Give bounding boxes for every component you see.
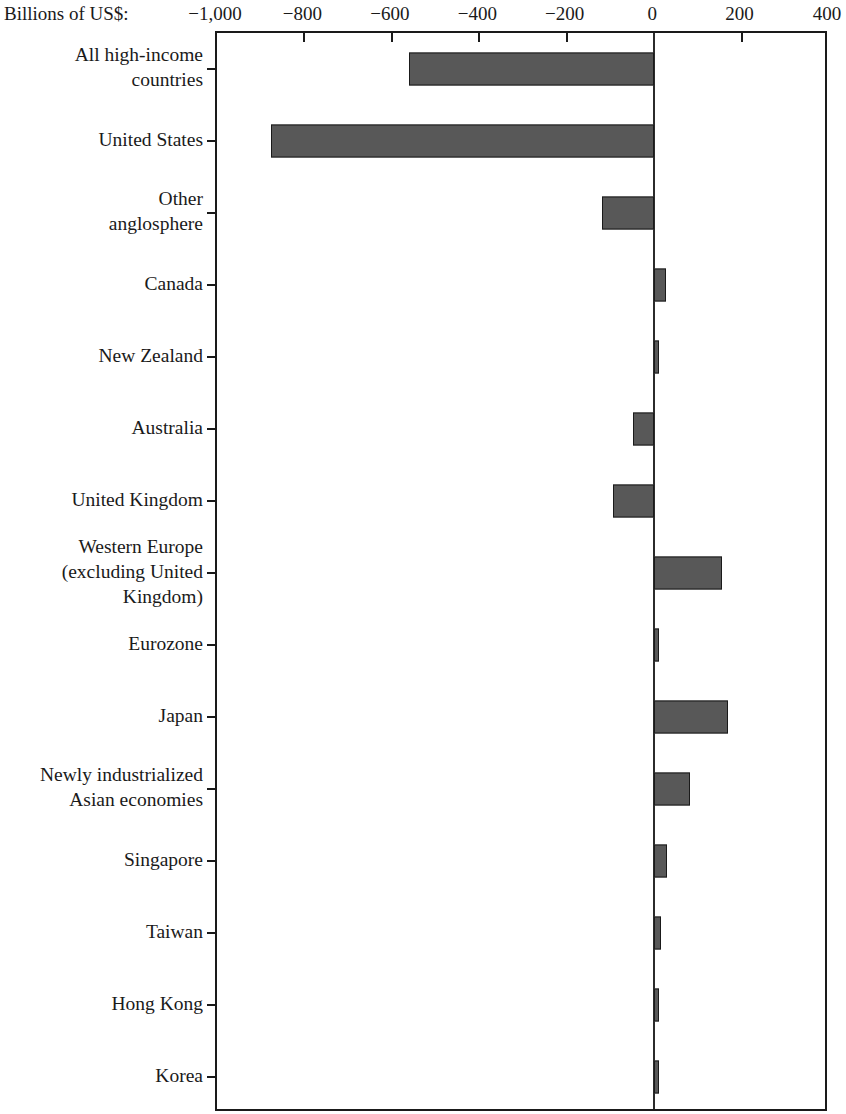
category-label: United States xyxy=(3,127,203,152)
category-label: Hong Kong xyxy=(3,991,203,1016)
category-label: Eurozone xyxy=(3,631,203,656)
category-axis-tick xyxy=(207,356,216,358)
chart-row xyxy=(217,969,825,1041)
axis-unit-label: Billions of US$: xyxy=(4,2,129,26)
x-axis-tick-label: 200 xyxy=(725,2,754,26)
category-label: Korea xyxy=(3,1063,203,1088)
chart-row xyxy=(217,825,825,897)
category-label: Other anglosphere xyxy=(3,186,203,236)
category-axis-tick xyxy=(207,716,216,718)
category-axis-tick xyxy=(207,500,216,502)
category-axis-tick xyxy=(207,932,216,934)
bar[interactable] xyxy=(654,1061,659,1094)
category-axis-tick xyxy=(207,428,216,430)
x-axis-tick-label: 0 xyxy=(647,2,657,26)
category-axis-tick xyxy=(207,860,216,862)
chart-root: Billions of US$: −1,000−800−600−400−2000… xyxy=(0,0,846,1114)
chart-row xyxy=(217,33,825,105)
chart-row xyxy=(217,105,825,177)
category-axis-tick xyxy=(207,644,216,646)
category-label: Singapore xyxy=(3,847,203,872)
category-axis-tick xyxy=(207,140,216,142)
category-axis-tick xyxy=(207,1004,216,1006)
bar[interactable] xyxy=(633,413,654,446)
plot-frame xyxy=(215,31,827,1111)
category-label: New Zealand xyxy=(3,343,203,368)
category-label: All high-income countries xyxy=(3,42,203,92)
category-label: Newly industrialized Asian economies xyxy=(3,762,203,812)
chart-row xyxy=(217,177,825,249)
category-label: Canada xyxy=(3,271,203,296)
x-axis-tick-label: −800 xyxy=(283,2,322,26)
bar[interactable] xyxy=(654,629,659,662)
bar[interactable] xyxy=(654,917,661,950)
category-label: Western Europe (excluding United Kingdom… xyxy=(3,534,203,609)
category-label: Australia xyxy=(3,415,203,440)
category-label: Taiwan xyxy=(3,919,203,944)
bar[interactable] xyxy=(654,845,667,878)
category-axis-tick xyxy=(207,68,216,70)
category-axis-tick xyxy=(207,572,216,574)
chart-row xyxy=(217,1041,825,1113)
bar[interactable] xyxy=(271,125,654,158)
bar[interactable] xyxy=(654,269,666,302)
x-axis-tick-label: −200 xyxy=(545,2,584,26)
chart-row xyxy=(217,609,825,681)
x-axis-tick-label: 400 xyxy=(813,2,842,26)
chart-row xyxy=(217,537,825,609)
category-label: United Kingdom xyxy=(3,487,203,512)
category-axis-tick xyxy=(207,284,216,286)
bar[interactable] xyxy=(602,197,654,230)
bar[interactable] xyxy=(654,701,727,734)
bar[interactable] xyxy=(654,557,722,590)
category-axis-tick xyxy=(207,788,216,790)
category-axis-tick xyxy=(207,1076,216,1078)
category-axis-tick xyxy=(207,212,216,214)
chart-row xyxy=(217,393,825,465)
plot-area xyxy=(217,33,825,1109)
bar[interactable] xyxy=(613,485,654,518)
chart-row xyxy=(217,753,825,825)
x-axis-tick-label: −1,000 xyxy=(188,2,241,26)
chart-row xyxy=(217,321,825,393)
bar[interactable] xyxy=(409,53,654,86)
bar[interactable] xyxy=(654,989,659,1022)
chart-row xyxy=(217,465,825,537)
chart-row xyxy=(217,681,825,753)
x-axis-tick-label: −600 xyxy=(370,2,409,26)
chart-row xyxy=(217,897,825,969)
bar[interactable] xyxy=(654,341,659,374)
category-label: Japan xyxy=(3,703,203,728)
bar[interactable] xyxy=(654,773,690,806)
x-axis-tick-label: −400 xyxy=(458,2,497,26)
chart-row xyxy=(217,249,825,321)
